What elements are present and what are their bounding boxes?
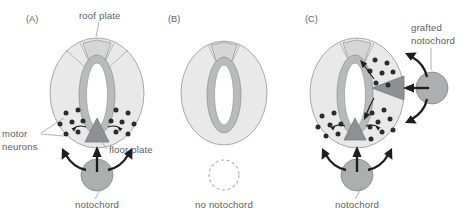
panel-a-letter: (A): [26, 14, 38, 24]
roof-plate-label: roof plate: [79, 10, 121, 21]
motor-neuron-dot: [369, 137, 374, 142]
motor-neuron-dot: [376, 120, 381, 125]
grafted-notochord-label-line2: notochord: [411, 35, 455, 46]
motor-neuron-dot: [76, 130, 81, 135]
motor-neuron-dot: [385, 61, 390, 66]
motor-neuron-dot: [382, 108, 387, 113]
absent-notochord-outline: [209, 160, 239, 190]
motor-neuron-dot: [380, 130, 385, 135]
panel-c: (C): [305, 14, 455, 210]
motor-neurons-label-line2: neurons: [2, 141, 38, 152]
motor-neuron-dot: [120, 120, 125, 125]
motor-neuron-dot: [70, 120, 75, 125]
motor-neuron-dot: [64, 132, 69, 137]
motor-neuron-dot: [374, 81, 379, 86]
motor-neuron-dot: [370, 111, 375, 116]
motor-neuron-dot: [81, 119, 86, 124]
motor-neuron-dot: [114, 130, 119, 135]
grafted-notochord-label-line1: grafted: [411, 22, 442, 33]
motor-neuron-dot: [388, 117, 393, 122]
neural-tube-figure: (A): [0, 0, 474, 224]
motor-neuron-dot: [391, 70, 396, 75]
motor-neuron-dot: [386, 83, 391, 88]
no-notochord-label: no notochord: [195, 199, 253, 210]
motor-neurons-leader-lower: [41, 134, 64, 136]
motor-neurons-label-line1: motor: [2, 128, 28, 139]
figure-canvas: (A): [0, 0, 474, 224]
motor-neuron-dot: [126, 132, 131, 137]
motor-neuron-dot: [380, 71, 385, 76]
motor-neuron-dot: [336, 132, 341, 137]
motor-neuron-dot: [320, 114, 325, 119]
motor-neuron-dot: [126, 111, 131, 116]
grafted-arrow-center-head: [403, 83, 414, 92]
grafted-notochord-signal-arrows: [403, 53, 429, 124]
motor-neuron-dot: [114, 108, 119, 113]
motor-neuron-dot: [109, 119, 114, 124]
panel-a: (A): [2, 10, 153, 210]
motor-neuron-dot: [58, 122, 63, 127]
motor-neuron-dot: [316, 125, 321, 130]
panel-b: (B) no notochord: [168, 14, 267, 210]
motor-neuron-dot: [132, 122, 137, 127]
panel-b-letter: (B): [168, 14, 180, 24]
panel-c-letter: (C): [305, 14, 318, 24]
motor-neuron-dot: [391, 128, 396, 133]
motor-neuron-dot: [332, 111, 337, 116]
notochord-label: notochord: [75, 199, 119, 210]
motor-neuron-dot: [324, 134, 329, 139]
motor-neuron-dot: [328, 123, 333, 128]
roof-plate-leader: [96, 22, 99, 37]
motor-neuron-dot: [373, 58, 378, 63]
notochord-signal-arrows: [322, 146, 393, 172]
lumen-cavity: [215, 65, 234, 125]
motor-neuron-dot: [64, 111, 69, 116]
floor-plate-label: floor plate: [109, 144, 153, 155]
motor-neuron-dot: [76, 108, 81, 113]
notochord-label: notochord: [335, 199, 379, 210]
